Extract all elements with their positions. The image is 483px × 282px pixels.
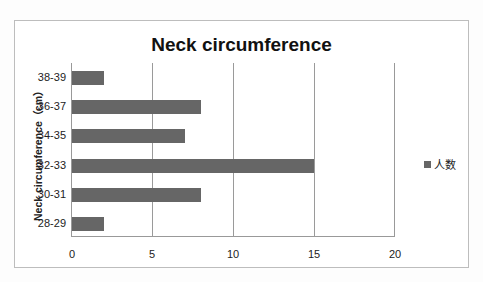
legend-swatch-icon [424,161,431,168]
x-tick-0: 0 [69,248,75,260]
legend: 人数 [424,156,456,172]
x-tick-15: 15 [308,248,320,260]
x-tick-5: 5 [149,248,155,260]
gridline-10 [233,63,234,237]
gridline-15 [314,63,315,237]
x-tick-20: 20 [389,248,401,260]
legend-label: 人数 [434,156,456,172]
bar-30-31 [72,188,201,202]
bar-28-29 [72,217,104,231]
bar-38-39 [72,71,104,85]
x-tick-10: 10 [227,248,239,260]
chart-title: Neck circumference [0,34,483,56]
bar-34-35 [72,129,185,143]
gridline-5 [152,63,153,237]
bar-32-33 [72,159,314,173]
bar-36-37 [72,100,201,114]
y-axis-title: Neck circumference（cm） [30,69,45,239]
